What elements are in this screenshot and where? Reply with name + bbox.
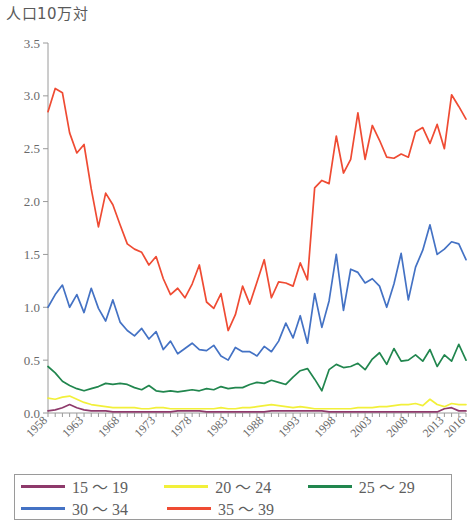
legend-swatch-30-34 xyxy=(21,507,65,510)
x-axis-tick-label: 1983 xyxy=(203,413,230,440)
series-line-20-24 xyxy=(48,396,466,409)
legend-item-15-19: 15 ～ 19 xyxy=(21,474,164,498)
chart-legend: 15 ～ 19 20 ～ 24 25 ～ 29 30 ～ 34 35 ～ 39 xyxy=(14,474,452,520)
x-axis-tick-label: 1993 xyxy=(275,413,302,440)
legend-item-30-34: 30 ～ 34 xyxy=(21,496,167,520)
series-line-25-29 xyxy=(48,344,466,392)
x-axis-tick-label: 1978 xyxy=(167,413,194,440)
x-axis-tick-label: 2008 xyxy=(384,413,411,440)
x-axis-tick-label: 2013 xyxy=(420,413,447,440)
legend-label-30-34: 30 ～ 34 xyxy=(72,496,128,520)
series-line-30-34 xyxy=(48,225,466,360)
x-axis-tick-label: 1998 xyxy=(312,413,339,440)
legend-swatch-35-39 xyxy=(167,507,211,510)
x-axis-tick-label: 2016 xyxy=(441,413,468,440)
legend-label-35-39: 35 ～ 39 xyxy=(218,496,274,520)
y-axis-tick-label: 0.5 xyxy=(24,353,40,368)
legend-item-25-29: 25 ～ 29 xyxy=(308,474,451,498)
y-axis-tick-label: 2.5 xyxy=(24,141,40,156)
series-line-35-39 xyxy=(48,88,466,330)
legend-row-2: 30 ～ 34 35 ～ 39 xyxy=(15,497,451,519)
legend-swatch-15-19 xyxy=(21,485,65,488)
x-axis-tick-label: 1968 xyxy=(95,413,122,440)
legend-swatch-25-29 xyxy=(308,485,352,488)
legend-label-25-29: 25 ～ 29 xyxy=(359,474,415,498)
legend-label-20-24: 20 ～ 24 xyxy=(215,474,271,498)
y-axis-tick-label: 1.5 xyxy=(24,247,40,262)
y-axis-tick-label: 3.5 xyxy=(24,36,40,51)
x-axis-tick-label: 1963 xyxy=(59,413,86,440)
chart-plot-area: 0.00.51.01.52.02.53.03.51958196319681973… xyxy=(0,0,471,470)
legend-label-15-19: 15 ～ 19 xyxy=(72,474,128,498)
x-axis-tick-label: 1973 xyxy=(131,413,158,440)
legend-item-35-39: 35 ～ 39 xyxy=(167,496,313,520)
y-axis-tick-label: 3.0 xyxy=(24,88,40,103)
x-axis-tick-label: 2003 xyxy=(348,413,375,440)
legend-swatch-20-24 xyxy=(164,485,208,488)
x-axis-tick-label: 1988 xyxy=(239,413,266,440)
y-axis-tick-label: 2.0 xyxy=(24,194,40,209)
y-axis-unit-label: 人口10万対 xyxy=(6,2,88,23)
y-axis-tick-label: 1.0 xyxy=(24,300,40,315)
legend-row-1: 15 ～ 19 20 ～ 24 25 ～ 29 xyxy=(15,475,451,497)
legend-item-20-24: 20 ～ 24 xyxy=(164,474,307,498)
line-chart-figure: 人口10万対 0.00.51.01.52.02.53.03.5195819631… xyxy=(0,0,471,525)
